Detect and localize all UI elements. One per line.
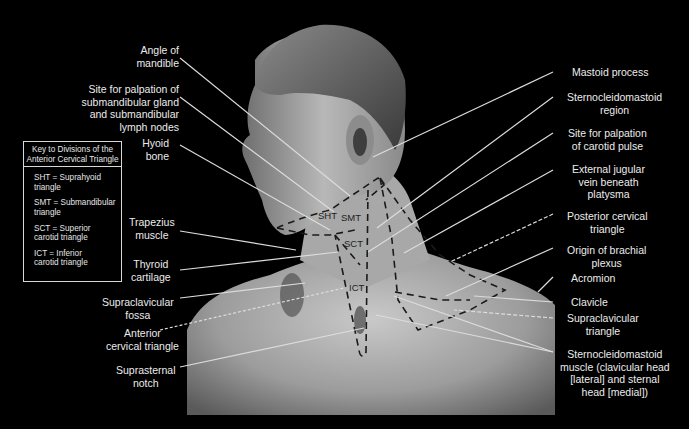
label-trapezius-muscle: Trapezius muscle [129, 216, 175, 241]
key-item-sht: SHT = Suprahyoid triangle [24, 167, 121, 192]
label-external-jugular-vein: External jugular vein beneath platysma [572, 163, 645, 201]
label-carotid-pulse-palpation: Site for palpation of carotid pulse [568, 127, 647, 152]
key-item-smt: SMT = Submandibular triangle [24, 192, 121, 217]
label-suprasternal-notch: Suprasternal notch [116, 364, 176, 389]
region-label-ict: ICT [349, 282, 364, 293]
label-mastoid-process: Mastoid process [572, 66, 648, 79]
label-sternocleidomastoid-muscle: Sternocleidomastoid muscle (clavicular h… [560, 348, 670, 398]
label-supraclavicular-triangle: Supraclavicular triangle [567, 312, 639, 337]
label-anterior-cervical-triangle: Anterior cervical triangle [106, 327, 179, 352]
label-thyroid-cartilage: Thyroid cartilage [131, 258, 171, 283]
key-item-sct: SCT = Superior carotid triangle [24, 218, 121, 243]
label-brachial-plexus-origin: Origin of brachial plexus [567, 244, 646, 269]
label-clavicle: Clavicle [571, 296, 608, 309]
label-submandibular-gland-palpation: Site for palpation of submandibular glan… [82, 83, 179, 133]
key-box: Key to Divisions of the Anterior Cervica… [23, 141, 122, 282]
region-label-sht: SHT [318, 210, 337, 221]
label-supraclavicular-fossa: Supraclavicular fossa [102, 296, 174, 321]
label-angle-of-mandible: Angle of mandible [136, 44, 179, 69]
label-hyoid-bone: Hyoid bone [142, 137, 169, 162]
key-item-ict: ICT = Inferior carotid triangle [24, 243, 121, 268]
key-title: Key to Divisions of the Anterior Cervica… [24, 142, 121, 167]
label-posterior-cervical-triangle: Posterior cervical triangle [567, 210, 648, 235]
label-acromion: Acromion [571, 272, 615, 285]
label-sternocleidomastoid-region: Sternocleidomastoid region [567, 91, 662, 116]
region-label-sct: SCT [344, 238, 363, 249]
region-label-smt: SMT [341, 212, 361, 223]
